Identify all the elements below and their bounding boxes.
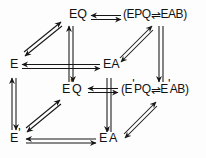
edge-eq-to-epqprime [69, 26, 73, 82]
node-eprime-a-base: E [99, 131, 107, 145]
harpoon-icon: ⇌ [151, 10, 161, 22]
edge-eprime-to-eaprime [26, 139, 96, 143]
node-eprime-pq-eprime-ab: (E'PQ⇌E'AB) [120, 83, 190, 96]
prime-mark: ' [18, 126, 20, 140]
node-eprime-q-base: E [62, 82, 70, 96]
edge-eprime-to-epqprime [26, 100, 61, 132]
node-eprime-base: E [10, 131, 18, 145]
edge-epqprime-to-eppqeab [88, 89, 118, 93]
paren-close: ) [183, 7, 187, 21]
node-ea-label: EA [103, 57, 119, 71]
node-epq-eab: (EPQ⇌EAB) [122, 8, 188, 21]
edge-epqeab-to-eppqeab [159, 26, 163, 82]
node-e: E [9, 58, 19, 71]
edge-eq-to-epqeab [91, 16, 121, 20]
edge-ea-to-eaprime [107, 78, 111, 132]
node-eprime-pq-tail: PQ [134, 82, 151, 96]
paren-close: ) [185, 82, 189, 96]
node-e-label: E [10, 57, 18, 71]
node-ea: EA [102, 58, 120, 71]
edge-e-to-ea [22, 65, 100, 69]
harpoon-icon: ⇌ [151, 85, 161, 97]
edge-ea-to-epqeab [120, 26, 153, 62]
node-eq: EQ [68, 8, 88, 21]
node-eab-label: EAB [160, 7, 183, 21]
edge-eaprime-to-eppqeab [124, 102, 157, 138]
node-epq-label: EPQ [127, 7, 151, 21]
node-eprime-a: E'A [98, 132, 118, 145]
node-eprime-q: E'Q [61, 83, 83, 96]
commutative-diagram: EQ (EPQ⇌EAB) E EA E'Q (E'PQ⇌E'AB) E' E'A [0, 0, 206, 158]
node-eprime: E' [9, 132, 21, 145]
edge-e-to-eprime [12, 78, 16, 130]
node-eprime-ab-tail: AB [170, 82, 185, 96]
edge-e-to-eq [24, 22, 62, 56]
node-eprime-q-tail: Q [72, 82, 82, 96]
node-eprime-a-tail: A [109, 131, 117, 145]
node-eprime-ab-base: E [160, 82, 168, 96]
node-eq-label: EQ [69, 7, 87, 21]
